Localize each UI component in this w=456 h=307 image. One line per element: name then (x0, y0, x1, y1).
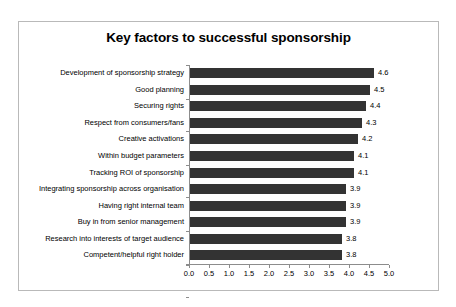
bar-value-label: 3.8 (342, 250, 356, 260)
bar-value-label: 4.4 (366, 101, 380, 111)
bar (190, 101, 366, 111)
bar-row: Research into interests of target audien… (189, 231, 389, 248)
bar-value-label: 4.6 (374, 68, 388, 78)
bar (190, 151, 354, 161)
bar-row: Tracking ROI of sponsorship4.1 (189, 165, 389, 182)
x-axis-tick (289, 265, 290, 268)
bar-value-label: 3.9 (346, 217, 360, 227)
bar-row: Buy in from senior management3.9 (189, 214, 389, 231)
bar (190, 168, 354, 178)
category-label: Development of sponsorship strategy (60, 68, 184, 78)
chart-title: Key factors to successful sponsorship (19, 30, 438, 45)
bar-value-label: 3.9 (346, 184, 360, 194)
bar-row: Good planning4.5 (189, 82, 389, 99)
bar-value-label: 4.5 (370, 85, 384, 95)
category-label: Securing rights (134, 101, 184, 111)
x-axis-tick (309, 265, 310, 268)
category-label: Having right internal team (99, 201, 184, 211)
bar (190, 184, 346, 194)
category-label: Tracking ROI of sponsorship (89, 168, 184, 178)
x-axis-tick-label: 1.0 (224, 269, 234, 278)
x-axis-tick-label: 2.0 (264, 269, 274, 278)
x-axis-tick (349, 265, 350, 268)
chart-container: Key factors to successful sponsorship De… (18, 21, 439, 291)
bar-row: Creative activations4.2 (189, 131, 389, 148)
x-axis-tick-label: 0.5 (204, 269, 214, 278)
bar-row: Competent/helpful right holder3.8 (189, 247, 389, 264)
category-label: Buy in from senior management (78, 217, 184, 227)
x-axis-tick-label: 4.0 (344, 269, 354, 278)
x-axis-tick (369, 265, 370, 268)
plot-area: Development of sponsorship strategy4.6Go… (189, 65, 389, 264)
bar (190, 234, 342, 244)
bar (190, 250, 342, 260)
bar-row: Securing rights4.4 (189, 98, 389, 115)
x-axis-tick-label: 4.5 (364, 269, 374, 278)
bar-row: Having right internal team3.9 (189, 198, 389, 215)
bar-value-label: 3.8 (342, 234, 356, 244)
bar (190, 85, 370, 95)
category-label: Respect from consumers/fans (84, 118, 184, 128)
bar-value-label: 4.2 (358, 134, 372, 144)
bar-value-label: 4.3 (362, 118, 376, 128)
x-axis-tick (229, 265, 230, 268)
category-label: Integrating sponsorship across organisat… (39, 184, 184, 194)
x-axis-tick (209, 265, 210, 268)
x-axis-tick-label: 2.5 (284, 269, 294, 278)
x-axis-tick-label: 5.0 (384, 269, 394, 278)
bar-value-label: 4.1 (354, 168, 368, 178)
x-axis-tick (249, 265, 250, 268)
category-label: Competent/helpful right holder (84, 250, 184, 260)
x-axis-tick-label: 0.0 (184, 269, 194, 278)
category-label: Within budget parameters (98, 151, 184, 161)
bar (190, 118, 362, 128)
category-label: Creative activations (119, 134, 184, 144)
y-axis-tick (186, 65, 189, 66)
bar (190, 217, 346, 227)
bar-row: Integrating sponsorship across organisat… (189, 181, 389, 198)
x-axis-tick (189, 265, 190, 268)
bar (190, 68, 374, 78)
x-axis-tick (389, 265, 390, 268)
x-axis-tick (269, 265, 270, 268)
bar-value-label: 4.1 (354, 151, 368, 161)
bar (190, 134, 358, 144)
bar (190, 201, 346, 211)
x-axis-tick (329, 265, 330, 268)
bar-value-label: 3.9 (346, 201, 360, 211)
x-axis-tick-label: 1.5 (244, 269, 254, 278)
x-axis-tick-label: 3.0 (304, 269, 314, 278)
category-label: Research into interests of target audien… (45, 234, 184, 244)
x-axis-tick-label: 3.5 (324, 269, 334, 278)
category-label: Good planning (135, 85, 184, 95)
y-axis-tick (186, 297, 189, 298)
bar-row: Within budget parameters4.1 (189, 148, 389, 165)
bar-row: Respect from consumers/fans4.3 (189, 115, 389, 132)
bar-row: Development of sponsorship strategy4.6 (189, 65, 389, 82)
